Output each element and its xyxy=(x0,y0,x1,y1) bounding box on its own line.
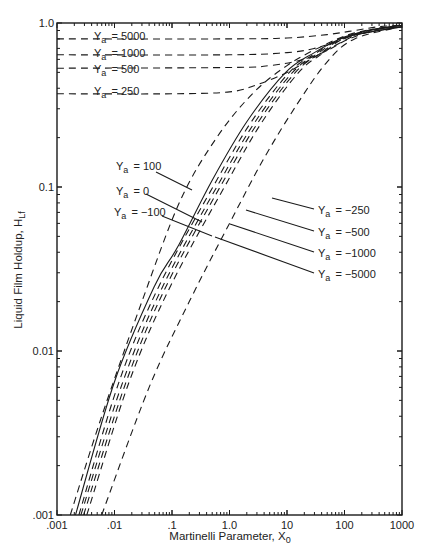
annotation-ya-minus-1000: Ya = −1000 xyxy=(318,247,376,262)
x-axis-label-main: Martinelli Parameter, X xyxy=(169,530,286,542)
annotation-value: = −100 xyxy=(128,206,165,218)
y-axis-label-main: Liquid Film Holdup, H xyxy=(12,219,24,329)
x-axis-label: Martinelli Parameter, X0 xyxy=(169,530,290,545)
annotation-subscript: a xyxy=(101,35,106,45)
annotation-subscript: a xyxy=(325,273,330,283)
annotation-value: = 250 xyxy=(108,85,139,97)
annotation-subscript: a xyxy=(325,252,330,262)
annotation-ya-minus-250: Ya = −250 xyxy=(318,204,370,219)
x-tick-label: 1000 xyxy=(390,519,414,531)
y-axis-label-sub: Lf xyxy=(17,211,27,219)
annotation-value: = 0 xyxy=(130,185,149,197)
y-tick-label: 1.0 xyxy=(39,17,54,29)
leader-line-yaneg100 xyxy=(156,172,192,190)
annotation-value: = 500 xyxy=(108,63,139,75)
annotation-value: = −250 xyxy=(332,204,369,216)
annotation-yaneg0: Ya = 0 xyxy=(116,185,149,200)
x-tick-label: 100 xyxy=(335,519,353,531)
annotation-subscript: a xyxy=(325,231,330,241)
x-axis-label-sub: 0 xyxy=(286,535,291,545)
annotation-subscript: a xyxy=(101,90,106,100)
leader-line-ya-minus-1000 xyxy=(230,224,314,252)
annotation-ya-minus-5000: Ya = −5000 xyxy=(318,268,376,283)
series-annotations: Ya = 5000Ya = 1000Ya = 500Ya = 250Ya = 1… xyxy=(94,30,376,283)
y-tick-label: 0.01 xyxy=(33,345,54,357)
leader-line-ya-minus-500 xyxy=(246,210,314,231)
annotation-subscript: a xyxy=(123,165,128,175)
annotation-value: = 1000 xyxy=(108,47,145,59)
annotation-yaneg5000: Ya = 5000 xyxy=(94,30,145,45)
annotation-yaneg1000: Ya = 1000 xyxy=(94,47,145,62)
leader-line-ya-minus-250 xyxy=(272,198,314,209)
martinelli-holdup-chart: .001.01.11.0101001000.0010.010.11.0 Ya =… xyxy=(0,0,422,560)
annotation-yaneg500: Ya = 500 xyxy=(94,63,139,78)
annotation-value: = −1000 xyxy=(332,247,375,259)
annotation-value: = 5000 xyxy=(108,30,145,42)
annotation-value: = −500 xyxy=(332,226,369,238)
x-tick-label: .01 xyxy=(107,519,122,531)
annotation-ya-minus-500: Ya = −500 xyxy=(318,226,370,241)
y-tick-label: 0.1 xyxy=(39,181,54,193)
annotation-subscript: a xyxy=(121,211,126,221)
annotation-value: = −5000 xyxy=(332,268,375,280)
annotation-ya-minus-100: Ya = −100 xyxy=(114,206,166,221)
annotation-subscript: a xyxy=(325,209,330,219)
annotation-subscript: a xyxy=(123,190,128,200)
leader-line-ya-minus-5000 xyxy=(215,237,314,273)
annotation-yaneg100: Ya = 100 xyxy=(116,160,161,175)
y-tick-label: .001 xyxy=(33,509,54,521)
annotation-subscript: a xyxy=(101,68,106,78)
annotation-value: = 100 xyxy=(130,160,161,172)
annotation-subscript: a xyxy=(101,52,106,62)
annotation-yaneg250: Ya = 250 xyxy=(94,85,139,100)
y-axis-label: Liquid Film Holdup, HLf xyxy=(12,211,27,329)
